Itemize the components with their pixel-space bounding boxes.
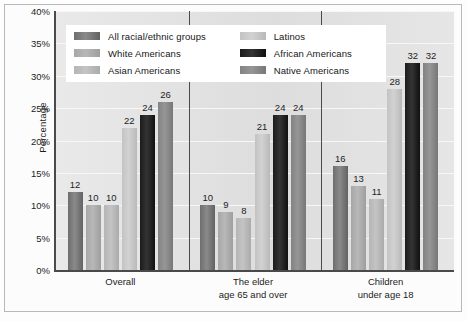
bar-value-label: 10 <box>202 192 213 203</box>
y-axis-tick-label: 25% <box>31 103 50 114</box>
y-axis-tick-label: 0% <box>36 265 50 276</box>
bar-value-label: 24 <box>293 102 304 113</box>
legend-item: Native Americans <box>240 63 386 77</box>
y-axis-tick-labels: 0%5%10%15%20%25%30%35%40% <box>8 11 50 270</box>
y-axis-tick-label: 20% <box>31 135 50 146</box>
bar: 10 <box>86 205 101 270</box>
gridline <box>56 11 454 12</box>
y-axis-tick-label: 10% <box>31 200 50 211</box>
bar-value-label: 22 <box>124 115 135 126</box>
bar: 24 <box>273 115 288 270</box>
legend-item: All racial/ethnic groups <box>74 29 236 43</box>
bar-value-label: 26 <box>160 89 171 100</box>
bar-value-label: 16 <box>335 153 346 164</box>
bar: 12 <box>68 192 83 270</box>
bar: 9 <box>218 212 233 270</box>
bar-value-label: 21 <box>257 121 268 132</box>
bar-value-label: 10 <box>88 192 99 203</box>
x-axis-category-labels: OverallThe elderage 65 and overChildrenu… <box>54 276 452 310</box>
bar: 11 <box>369 199 384 270</box>
bar: 32 <box>423 63 438 270</box>
bar: 22 <box>122 128 137 270</box>
bar: 10 <box>104 205 119 270</box>
legend-item: African Americans <box>240 46 386 60</box>
bar: 26 <box>158 102 173 270</box>
bar-value-label: 11 <box>372 186 382 197</box>
bar: 10 <box>200 205 215 270</box>
y-axis-tick-label: 40% <box>31 6 50 17</box>
bar-value-label: 32 <box>408 50 419 61</box>
x-axis-category-label-line: Children <box>358 276 414 289</box>
y-axis-tick-label: 5% <box>36 232 50 243</box>
bar: 28 <box>387 89 402 270</box>
legend-swatch <box>240 49 266 57</box>
bar-value-label: 32 <box>426 50 437 61</box>
x-axis-category-label: The elderage 65 and over <box>219 276 288 301</box>
x-axis-category-label-line: under age 18 <box>358 289 414 302</box>
legend-column-left: All racial/ethnic groupsWhite AmericansA… <box>66 29 236 82</box>
y-axis-tick-label: 35% <box>31 38 50 49</box>
x-axis-category-label: Overall <box>105 276 135 289</box>
bar: 24 <box>140 115 155 270</box>
legend-item: Latinos <box>240 29 386 43</box>
bar-value-label: 12 <box>70 179 81 190</box>
x-axis-category-label-line: age 65 and over <box>219 289 288 302</box>
legend-label: Latinos <box>274 31 305 42</box>
legend-label: Asian Americans <box>108 65 180 76</box>
y-axis-tick-label: 15% <box>31 167 50 178</box>
chart-figure: Percentage 0%5%10%15%20%25%30%35%40% 121… <box>0 0 467 321</box>
bar: 21 <box>255 134 270 270</box>
legend-swatch <box>240 66 266 74</box>
legend-swatch <box>74 49 100 57</box>
bar-value-label: 24 <box>142 102 153 113</box>
bar-value-label: 9 <box>223 199 228 210</box>
x-axis-category-label-line: Overall <box>105 276 135 289</box>
x-axis-category-label-line: The elder <box>219 276 288 289</box>
legend-column-right: LatinosAfrican AmericansNative Americans <box>236 29 386 82</box>
y-axis-tick-label: 30% <box>31 70 50 81</box>
legend-swatch <box>74 66 100 74</box>
legend-label: African Americans <box>274 48 352 59</box>
chart-legend: All racial/ethnic groupsWhite AmericansA… <box>66 25 386 82</box>
bar: 32 <box>405 63 420 270</box>
legend-swatch <box>74 32 100 40</box>
bar: 24 <box>291 115 306 270</box>
x-axis-category-label: Childrenunder age 18 <box>358 276 414 301</box>
legend-item: Asian Americans <box>74 63 236 77</box>
bar-value-label: 24 <box>275 102 286 113</box>
legend-label: All racial/ethnic groups <box>108 31 206 42</box>
legend-swatch <box>240 32 266 40</box>
bar: 13 <box>351 186 366 270</box>
legend-item: White Americans <box>74 46 236 60</box>
bar-value-label: 8 <box>241 205 246 216</box>
bar: 16 <box>333 166 348 270</box>
bar-value-label: 13 <box>353 173 364 184</box>
bar: 8 <box>236 218 251 270</box>
legend-label: White Americans <box>108 48 181 59</box>
bar-value-label: 28 <box>389 76 400 87</box>
bar-value-label: 10 <box>106 192 117 203</box>
legend-label: Native Americans <box>274 65 350 76</box>
